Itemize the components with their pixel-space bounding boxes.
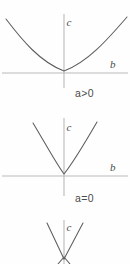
panel2-vertical-axis-label: c [67, 121, 72, 133]
figure-canvas: c b a>0 c b a=0 c [0, 0, 130, 264]
panel2-horizontal-axis-label: b [110, 161, 116, 173]
panel-narrow-v: c b a=0 [2, 118, 128, 204]
panel3-vertical-axis-label: c [67, 221, 72, 233]
panel2-condition-label: a=0 [75, 192, 94, 204]
panel2-v-curve [33, 122, 97, 174]
panel-clipped-v: c [47, 220, 83, 264]
panel3-v-left-arm [47, 223, 64, 259]
figure-svg: c b a>0 c b a=0 c [0, 0, 130, 264]
panel1-condition-label: a>0 [75, 87, 94, 99]
panel1-horizontal-axis-label: b [110, 58, 116, 70]
panel-upward-parabola: c b a>0 [2, 14, 128, 99]
panel1-vertical-axis-label: c [67, 16, 72, 28]
